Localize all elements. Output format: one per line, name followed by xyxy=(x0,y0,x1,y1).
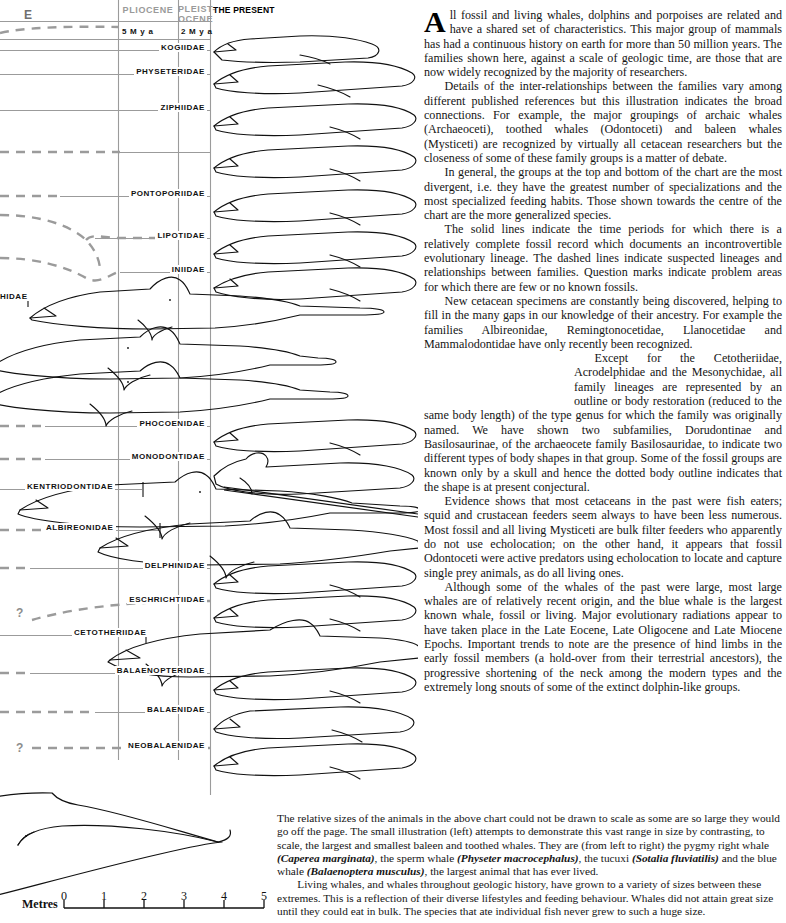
epoch-label-partial: E xyxy=(24,8,32,22)
family-label-ziphiidae: ZIPHIIDAE xyxy=(158,103,207,112)
paragraph-8: Although some of the whales of the past … xyxy=(424,580,782,694)
scale-tick-1: 1 xyxy=(101,889,107,904)
mya-mark-5: 5 M y a xyxy=(122,27,154,36)
question-mark-eschrichtiidae: ? xyxy=(16,606,23,620)
scale-axis xyxy=(64,900,264,908)
family-label-albireonidae: ALBIREONIDAE xyxy=(44,523,116,532)
family-label-balaenidae: BALAENIDAE xyxy=(145,705,207,714)
caption-paragraph-2: Living whales, and whales throughout geo… xyxy=(277,878,782,918)
family-label-lipotidae: LIPOTIDAE xyxy=(155,231,207,240)
paragraph-1-text: ll fossil and living whales, dolphins an… xyxy=(424,8,782,79)
caption-p1-c: , the tucuxi xyxy=(579,852,632,864)
family-label-physeteridae: PHYSETERIDAE xyxy=(134,67,207,76)
family-label-neobalaenidae: NEOBALAENIDAE xyxy=(126,741,207,750)
caption-p1-a: The relative sizes of the animals in the… xyxy=(277,812,780,851)
whale-silhouettes xyxy=(0,36,418,779)
figure-caption: The relative sizes of the animals in the… xyxy=(277,812,782,918)
drop-cap: A xyxy=(424,8,450,34)
cetacean-phylogeny-chart: E PLIOCENE PLEIST- OCENE THE PRESENT 5 M… xyxy=(0,0,418,800)
paragraph-4: The solid lines indicate the time period… xyxy=(424,222,782,293)
caption-species-caperea: (Caperea marginata) xyxy=(277,852,375,864)
family-label-delphinidae: DELPHINIDAE xyxy=(143,561,207,570)
paragraph-6: Except for the Cetotheriidae, Acrodelphi… xyxy=(424,351,782,494)
family-label-monodontidae: MONODONTIDAE xyxy=(130,452,207,461)
family-label-balaenopteridae: BALAENOPTERIDAE xyxy=(115,666,207,675)
caption-p1-e: , the largest animal that has ever lived… xyxy=(425,865,599,877)
family-label-kentriodontidae: KENTRIODONTIDAE xyxy=(25,482,115,491)
paragraph-7: Evidence shows that most cetaceans in th… xyxy=(424,494,782,580)
paragraph-1: All fossil and living whales, dolphins a… xyxy=(424,8,782,79)
grid-lines xyxy=(0,0,211,795)
mya-mark-2: 2 M y a xyxy=(181,27,213,36)
scale-tick-4: 4 xyxy=(221,889,227,904)
epoch-header-pleistocene: PLEIST- OCENE xyxy=(178,4,210,24)
callout-leader-line xyxy=(224,487,418,517)
family-label-iniidae: INIIDAE xyxy=(170,265,207,274)
family-label-kogiidae: KOGIIDAE xyxy=(159,43,207,52)
caption-p1-b: , the sperm whale xyxy=(375,852,458,864)
chart-graphics xyxy=(0,0,418,800)
paragraph-3: In general, the groups at the top and bo… xyxy=(424,165,782,222)
scale-tick-5: 5 xyxy=(261,889,267,904)
caption-species-balaenoptera: (Balaenoptera musculus) xyxy=(307,865,425,877)
article-body: All fossil and living whales, dolphins a… xyxy=(424,8,782,694)
caption-species-physeter: (Physeter macrocephalus) xyxy=(457,852,578,864)
epoch-header-pliocene: PLIOCENE xyxy=(118,5,178,15)
page-root: E PLIOCENE PLEIST- OCENE THE PRESENT 5 M… xyxy=(0,0,786,923)
family-label-phocoenidae: PHOCOENIDAE xyxy=(137,419,207,428)
caption-paragraph-1: The relative sizes of the animals in the… xyxy=(277,812,782,878)
family-label-acrodelphidae: PHIDAE xyxy=(0,292,30,301)
callout-text-indent-spacer xyxy=(424,351,574,395)
family-label-eschrichtiidae: ESCHRICHTIIDAE xyxy=(127,595,207,604)
scale-axis-label: Metres xyxy=(22,897,58,912)
paragraph-2: Details of the inter-relationships betwe… xyxy=(424,79,782,165)
scale-tick-3: 3 xyxy=(181,889,187,904)
caption-species-sotalia: (Sotalia fluviatilis) xyxy=(632,852,719,864)
family-label-pontoporiidae: PONTOPORIIDAE xyxy=(129,189,207,198)
scale-tick-0: 0 xyxy=(61,889,67,904)
scale-tick-2: 2 xyxy=(141,889,147,904)
epoch-header-the-present: THE PRESENT xyxy=(213,5,293,15)
paragraph-5: New cetacean specimens are constantly be… xyxy=(424,294,782,351)
family-label-cetotheriidae: CETOTHERIIDAE xyxy=(72,628,148,637)
question-mark-neobalaenidae: ? xyxy=(16,741,23,755)
